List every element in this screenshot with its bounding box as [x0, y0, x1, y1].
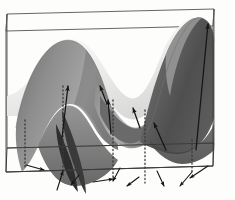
base-gradient-arrow [127, 177, 139, 186]
surface-plot-canvas [0, 0, 235, 200]
base-gradient-arrow [26, 165, 44, 170]
surface-plot-figure [0, 0, 235, 200]
wavy-surface [7, 17, 214, 194]
base-gradient-arrow [157, 171, 164, 186]
base-gradient-arrow [180, 172, 192, 186]
base-gradient-arrow [113, 168, 120, 181]
base-gradient-arrow [190, 166, 208, 178]
